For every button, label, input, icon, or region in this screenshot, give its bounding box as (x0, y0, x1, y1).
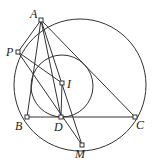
point-D (59, 115, 63, 119)
circumcircle (14, 19, 146, 151)
label-B: B (15, 119, 23, 133)
segment-PI (18, 52, 62, 83)
label-I: I (66, 77, 72, 91)
point-A (39, 18, 43, 22)
label-D: D (53, 120, 63, 134)
label-C: C (136, 118, 145, 132)
label-P: P (5, 45, 14, 59)
point-P (16, 50, 20, 54)
point-I (60, 81, 64, 85)
label-M: M (74, 147, 86, 161)
segment-ID (61, 83, 62, 117)
point-B (25, 115, 29, 119)
segment-AD (41, 20, 61, 117)
geometry-diagram: A P I B D C M (0, 0, 155, 166)
label-A: A (29, 7, 38, 21)
